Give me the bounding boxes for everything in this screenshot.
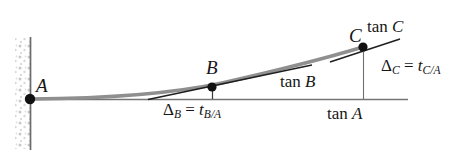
label-tan-a: tan A [327,105,362,122]
label-tan-c: tan C [367,18,403,35]
delta-b-symbol: Δ [163,100,174,119]
delta-b-subscript: B [174,108,181,121]
point-B-dot [207,82,216,91]
delta-c-equals: = [400,56,418,75]
point-A-dot [25,94,35,104]
tan-a-keyword: tan [327,104,348,123]
tan-c-keyword: tan [367,17,388,36]
label-delta-c: ΔC = tC/A [381,57,440,77]
label-point-c: C [349,26,362,45]
delta-c-symbol: Δ [381,56,392,75]
delta-c-t-subscript: C/A [422,64,440,77]
label-point-b: B [206,58,218,77]
label-tan-b: tan B [280,73,315,90]
beam-deflection-figure: A B C tan A tan B tan C ΔB = tB/A ΔC = t… [0,0,454,155]
wall-hatching [15,38,30,149]
tan-b-argument: B [305,72,315,91]
tan-a-argument: A [352,104,362,123]
delta-b-t-subscript: B/A [204,108,221,121]
label-point-a: A [36,76,48,95]
delta-c-subscript: C [392,64,400,77]
tan-c-argument: C [392,17,403,36]
label-delta-b: ΔB = tB/A [163,101,221,121]
delta-b-equals: = [181,100,199,119]
tan-b-keyword: tan [280,72,301,91]
